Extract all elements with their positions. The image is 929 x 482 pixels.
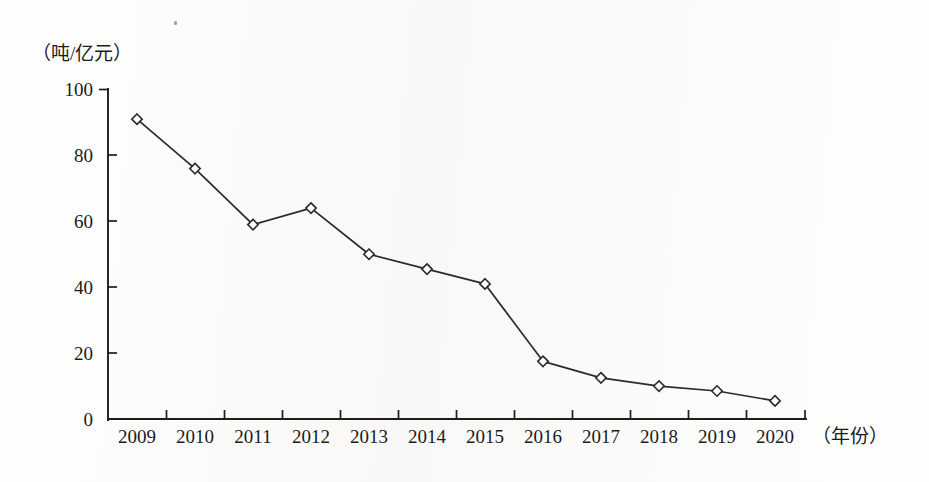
y-tick-label-60: 60 <box>74 211 93 232</box>
x-tick-label-2019: 2019 <box>698 426 736 447</box>
data-point-marker-2014 <box>422 264 432 274</box>
data-point-marker-2018 <box>654 381 664 391</box>
y-tick-labels: 100 80 60 40 20 0 <box>65 79 94 430</box>
y-tick-label-20: 20 <box>74 343 93 364</box>
line-chart: 100 80 60 40 20 0 （吨/亿元） 2009 <box>0 0 929 482</box>
x-tick-label-2015: 2015 <box>466 426 504 447</box>
y-tick-label-0: 0 <box>84 409 94 430</box>
x-tick-label-2011: 2011 <box>234 426 271 447</box>
x-tick-label-2014: 2014 <box>408 426 447 447</box>
x-tick-label-2013: 2013 <box>350 426 388 447</box>
data-point-marker-2019 <box>712 386 722 396</box>
x-tick-labels: 2009 2010 2011 2012 2013 2014 2015 2016 … <box>118 426 794 447</box>
x-axis <box>108 410 806 419</box>
series-line-path <box>137 119 775 401</box>
series-markers <box>132 114 780 406</box>
data-point-marker-2017 <box>596 373 606 383</box>
x-tick-label-2010: 2010 <box>176 426 214 447</box>
y-tick-label-40: 40 <box>74 277 93 298</box>
y-axis <box>99 89 117 420</box>
chart-page: 100 80 60 40 20 0 （吨/亿元） 2009 <box>0 0 929 482</box>
x-tick-label-2020: 2020 <box>756 426 794 447</box>
data-point-marker-2020 <box>770 396 780 406</box>
x-tick-label-2017: 2017 <box>582 426 620 447</box>
x-axis-label: （年份） <box>812 426 888 447</box>
x-tick-label-2018: 2018 <box>640 426 678 447</box>
x-tick-label-2012: 2012 <box>292 426 330 447</box>
x-tick-label-2016: 2016 <box>524 426 562 447</box>
x-tick-label-2009: 2009 <box>118 426 156 447</box>
y-tick-label-80: 80 <box>74 145 93 166</box>
y-tick-label-100: 100 <box>65 79 94 100</box>
y-axis-label: （吨/亿元） <box>32 43 132 64</box>
